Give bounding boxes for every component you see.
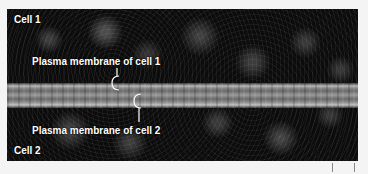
scale-tick-right xyxy=(354,163,355,172)
membrane-2-label: Plasma membrane of cell 2 xyxy=(32,125,160,136)
cell-1-label: Cell 1 xyxy=(14,14,41,25)
membrane-1-bracket-icon xyxy=(109,68,123,96)
plasma-membrane-band xyxy=(7,83,358,108)
scale-tick-left xyxy=(332,163,333,172)
cell-2-label: Cell 2 xyxy=(14,145,41,156)
scale-bar xyxy=(330,163,360,174)
membrane-2-bracket-icon xyxy=(131,93,145,123)
membrane-1-label: Plasma membrane of cell 1 xyxy=(32,56,160,67)
micrograph-image: Cell 1 Cell 2 Plasma membrane of cell 1 … xyxy=(7,9,358,161)
